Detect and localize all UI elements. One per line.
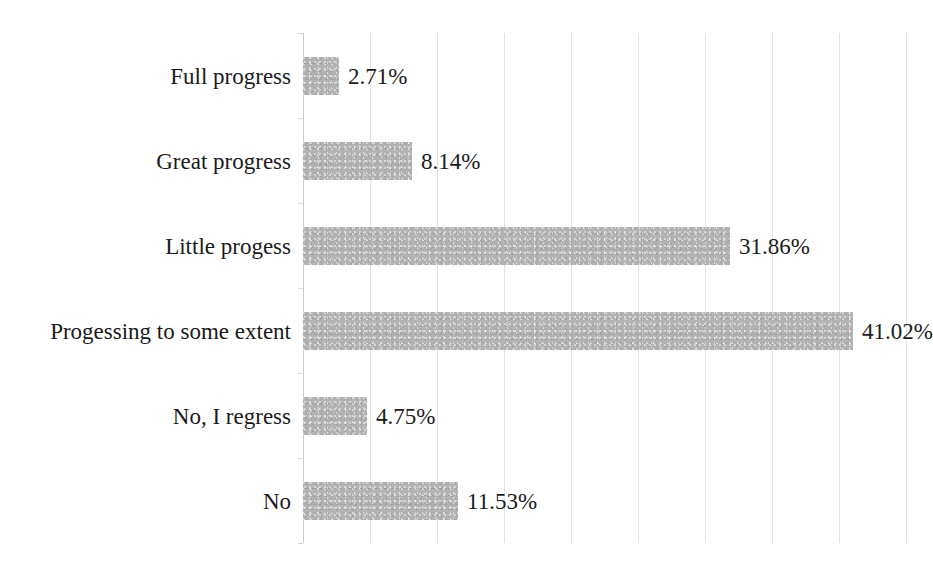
category-label: Great progress xyxy=(156,150,291,173)
bar xyxy=(303,57,339,95)
bar-row: 4.75% xyxy=(303,397,905,435)
bar-value-label: 41.02% xyxy=(862,320,933,343)
category-label-row: Little progess xyxy=(0,227,291,265)
category-label: No xyxy=(263,490,291,513)
category-axis-labels: Full progressGreat progressLittle proges… xyxy=(0,33,291,543)
bar-row: 11.53% xyxy=(303,482,905,520)
bar-row: 8.14% xyxy=(303,142,905,180)
category-label-row: Great progress xyxy=(0,142,291,180)
category-label-row: No, I regress xyxy=(0,397,291,435)
category-label: Progessing to some extent xyxy=(50,320,291,343)
category-label-row: Progessing to some extent xyxy=(0,312,291,350)
bar xyxy=(303,227,730,265)
bar xyxy=(303,142,412,180)
bar-row: 2.71% xyxy=(303,57,905,95)
category-label: Little progess xyxy=(165,235,291,258)
category-label: Full progress xyxy=(170,65,291,88)
bar-value-label: 8.14% xyxy=(421,150,480,173)
bar-row: 31.86% xyxy=(303,227,905,265)
bar-value-label: 2.71% xyxy=(348,65,407,88)
bar-value-label: 11.53% xyxy=(467,490,537,513)
gridline-45 xyxy=(906,33,907,543)
bar-rows: 2.71%8.14%31.86%41.02%4.75%11.53% xyxy=(303,33,905,543)
category-label-row: Full progress xyxy=(0,57,291,95)
bar-value-label: 4.75% xyxy=(376,405,435,428)
bar xyxy=(303,397,367,435)
category-label-row: No xyxy=(0,482,291,520)
category-label: No, I regress xyxy=(173,405,291,428)
category-tick-mark xyxy=(298,543,303,544)
bar xyxy=(303,482,458,520)
plot-area: 2.71%8.14%31.86%41.02%4.75%11.53% xyxy=(303,33,905,543)
bar-value-label: 31.86% xyxy=(739,235,810,258)
bar-row: 41.02% xyxy=(303,312,905,350)
bar xyxy=(303,312,853,350)
